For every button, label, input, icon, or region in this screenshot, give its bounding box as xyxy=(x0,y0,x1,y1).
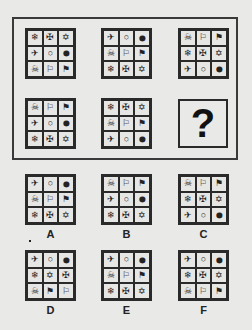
symbol-cell: ✈ xyxy=(103,131,119,147)
option-label-e[interactable]: E xyxy=(101,304,152,316)
symbol-cell: ○ xyxy=(196,61,212,77)
symbol-cell: ⚐ xyxy=(119,268,135,284)
symbol-cell: ❄ xyxy=(27,268,43,284)
symbol-cell: ⚑ xyxy=(58,61,74,77)
symbol-cell: ❄ xyxy=(27,131,43,147)
symbol-cell: ✡ xyxy=(134,283,150,299)
symbol-cell: ✠ xyxy=(196,46,212,62)
option-label-d[interactable]: D xyxy=(25,304,76,316)
option-e[interactable]: ✈○⬤☠⚐⚑❄✠✡ xyxy=(101,250,152,301)
symbol-cell: ⬤ xyxy=(134,131,150,147)
symbol-cell: ✈ xyxy=(103,252,119,268)
symbol-cell: ✡ xyxy=(211,192,227,208)
symbol-cell: ✡ xyxy=(43,268,59,284)
symbol-cell: ✡ xyxy=(134,61,150,77)
puzzle-tile-4: ☠⚐⚑✈○⬤❄✠✡ xyxy=(25,98,76,149)
symbol-cell: ⚐ xyxy=(196,176,212,192)
symbol-cell: ⚐ xyxy=(119,176,135,192)
option-label-b[interactable]: B xyxy=(101,228,152,240)
stray-dot xyxy=(29,240,31,242)
option-label-f[interactable]: F xyxy=(178,304,229,316)
symbol-cell: ⚑ xyxy=(134,176,150,192)
option-c[interactable]: ☠⚐⚑❄✠✡✈○⬤ xyxy=(178,174,229,225)
symbol-cell: ☠ xyxy=(103,116,119,132)
symbol-cell: ✠ xyxy=(119,61,135,77)
symbol-cell: ⚐ xyxy=(43,61,59,77)
symbol-cell: ⚑ xyxy=(43,283,59,299)
symbol-cell: ⚐ xyxy=(119,46,135,62)
symbol-cell: ○ xyxy=(196,207,212,223)
symbol-cell: ✡ xyxy=(211,46,227,62)
puzzle-tile-1: ❄✠✡✈○⬤☠⚐⚑ xyxy=(25,28,76,79)
symbol-cell: ✈ xyxy=(27,116,43,132)
symbol-cell: ⚑ xyxy=(211,176,227,192)
option-d[interactable]: ✈○⬤❄✡✠☠⚑⚐ xyxy=(25,250,76,301)
symbol-cell: ☠ xyxy=(27,61,43,77)
puzzle-tile-3: ☠⚐⚑❄✠✡✈○⬤ xyxy=(178,28,229,79)
symbol-cell: ○ xyxy=(119,252,135,268)
symbol-cell: ⬤ xyxy=(211,207,227,223)
symbol-cell: ✠ xyxy=(119,207,135,223)
symbol-cell: ❄ xyxy=(103,207,119,223)
symbol-cell: ✠ xyxy=(196,268,212,284)
symbol-cell: ✠ xyxy=(58,268,74,284)
symbol-cell: ❄ xyxy=(103,100,119,116)
symbol-cell: ✈ xyxy=(27,46,43,62)
symbol-cell: ☠ xyxy=(180,176,196,192)
symbol-cell: ✡ xyxy=(211,268,227,284)
option-b[interactable]: ☠⚐⚑✈○⬤❄✠✡ xyxy=(101,174,152,225)
symbol-cell: ⚑ xyxy=(134,268,150,284)
symbol-cell: ❄ xyxy=(27,30,43,46)
symbol-cell: ⬤ xyxy=(58,116,74,132)
option-f[interactable]: ✈○⬤❄✠✡☠⚐⚑ xyxy=(178,250,229,301)
symbol-cell: ☠ xyxy=(27,100,43,116)
symbol-cell: ✡ xyxy=(134,100,150,116)
symbol-cell: ⚑ xyxy=(58,192,74,208)
symbol-cell: ❄ xyxy=(27,207,43,223)
symbol-cell: ✠ xyxy=(43,131,59,147)
option-a[interactable]: ✈○⬤☠⚐⚑❄✠✡ xyxy=(25,174,76,225)
symbol-cell: ⬤ xyxy=(134,30,150,46)
symbol-cell: ✈ xyxy=(103,192,119,208)
symbol-cell: ✈ xyxy=(103,30,119,46)
symbol-cell: ❄ xyxy=(180,192,196,208)
symbol-cell: ⬤ xyxy=(58,46,74,62)
symbol-cell: ⬤ xyxy=(134,192,150,208)
symbol-cell: ✠ xyxy=(43,207,59,223)
symbol-cell: ❄ xyxy=(103,283,119,299)
symbol-cell: ✠ xyxy=(119,100,135,116)
symbol-cell: ⚐ xyxy=(43,100,59,116)
symbol-cell: ⚑ xyxy=(211,30,227,46)
symbol-cell: ❄ xyxy=(103,61,119,77)
symbol-cell: ○ xyxy=(119,131,135,147)
symbol-cell: ○ xyxy=(119,30,135,46)
symbol-cell: ⚑ xyxy=(134,46,150,62)
symbol-cell: ✡ xyxy=(134,207,150,223)
symbol-cell: ⚑ xyxy=(134,116,150,132)
symbol-cell: ☠ xyxy=(27,192,43,208)
symbol-cell: ☠ xyxy=(180,30,196,46)
symbol-cell: ○ xyxy=(43,252,59,268)
symbol-cell: ☠ xyxy=(103,268,119,284)
puzzle-tile-5: ❄✠✡☠⚐⚑✈○⬤ xyxy=(101,98,152,149)
symbol-cell: ⬤ xyxy=(58,176,74,192)
symbol-cell: ❄ xyxy=(180,46,196,62)
option-label-c[interactable]: C xyxy=(178,228,229,240)
question-mark: ? xyxy=(191,101,215,146)
symbol-cell: ○ xyxy=(43,176,59,192)
symbol-cell: ⚐ xyxy=(119,116,135,132)
symbol-cell: ○ xyxy=(196,252,212,268)
symbol-cell: ⚐ xyxy=(196,30,212,46)
symbol-cell: ⚐ xyxy=(58,283,74,299)
symbol-cell: ☠ xyxy=(180,283,196,299)
symbol-cell: ⬤ xyxy=(211,61,227,77)
option-label-a[interactable]: A xyxy=(25,228,76,240)
symbol-cell: ⚐ xyxy=(43,192,59,208)
symbol-cell: ○ xyxy=(43,116,59,132)
symbol-cell: ☠ xyxy=(27,283,43,299)
symbol-cell: ☠ xyxy=(103,176,119,192)
symbol-cell: ✠ xyxy=(119,283,135,299)
symbol-cell: ✈ xyxy=(27,252,43,268)
symbol-cell: ✈ xyxy=(27,176,43,192)
symbol-cell: ⬤ xyxy=(58,252,74,268)
